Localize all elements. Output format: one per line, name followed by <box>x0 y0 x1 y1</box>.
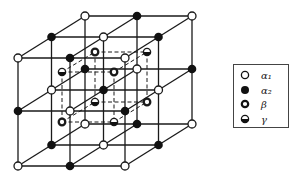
atom-alpha1 <box>133 65 141 73</box>
atom-alpha2 <box>133 12 142 21</box>
lattice-diagram <box>0 0 230 180</box>
legend-label: β <box>261 99 267 110</box>
atom-alpha2 <box>154 141 163 150</box>
inner-cube-edge <box>114 102 147 122</box>
atom-alpha1 <box>81 12 89 20</box>
atom-alpha2 <box>47 33 56 42</box>
legend-item-gamma: γ <box>240 112 267 126</box>
atom-alpha2 <box>66 54 75 63</box>
atom-alpha1 <box>155 86 163 94</box>
legend-label: γ <box>261 114 267 125</box>
atom-alpha2 <box>99 86 108 95</box>
atom-alpha1 <box>66 107 74 115</box>
half-filled-circle-icon <box>240 114 250 124</box>
atom-beta <box>92 49 99 56</box>
atom-beta <box>59 119 66 126</box>
atom-alpha1 <box>14 162 22 170</box>
atom-alpha1 <box>121 162 129 170</box>
atom-alpha1 <box>100 33 108 41</box>
atom-alpha1 <box>100 141 108 149</box>
atom-alpha1 <box>14 54 22 62</box>
atom-alpha2 <box>133 120 142 129</box>
atom-alpha1 <box>48 86 56 94</box>
legend-item-alpha1: α₁ <box>240 68 272 82</box>
atom-alpha2 <box>47 141 56 150</box>
legend-item-beta: β <box>240 97 267 111</box>
atom-alpha2 <box>14 107 23 116</box>
atom-alpha1 <box>121 54 129 62</box>
legend-label: α₁ <box>261 70 272 81</box>
atom-alpha2 <box>154 33 163 42</box>
atom-beta <box>111 69 118 76</box>
open-circle-icon <box>240 70 250 80</box>
legend-label: α₂ <box>261 85 272 96</box>
atom-alpha1 <box>188 12 196 20</box>
atom-alpha2 <box>121 107 130 116</box>
atom-alpha2 <box>66 162 75 171</box>
thick-ring-icon <box>240 99 250 109</box>
atom-alpha1 <box>81 120 89 128</box>
atom-alpha2 <box>188 65 197 74</box>
legend: α₁ α₂ β γ <box>233 64 289 128</box>
atom-alpha1 <box>188 120 196 128</box>
atom-beta <box>144 99 151 106</box>
atom-alpha2 <box>81 65 90 74</box>
legend-item-alpha2: α₂ <box>240 83 272 97</box>
filled-circle-icon <box>240 85 250 95</box>
